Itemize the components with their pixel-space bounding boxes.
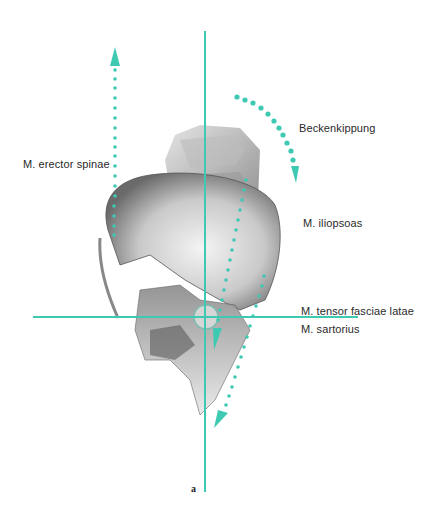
overlay-lines — [0, 0, 427, 524]
label-beckenkippung: Beckenkippung — [299, 122, 376, 134]
figure-letter: a — [191, 483, 196, 494]
label-erector-spinae: M. erector spinae — [23, 158, 110, 170]
erector-spinae-arrow-icon — [110, 47, 120, 237]
label-sartorius: M. sartorius — [301, 323, 360, 335]
label-tensor-fasciae-latae: M. tensor fasciae latae — [301, 305, 414, 317]
figure-stage: M. erector spinae Beckenkippung M. iliop… — [0, 0, 427, 524]
label-iliopsoas: M. iliopsoas — [303, 217, 362, 229]
iliopsoas-arrow-icon — [213, 178, 248, 350]
tensor-sartorius-arrow-icon — [214, 274, 266, 428]
beckenkippung-arrow-icon — [234, 94, 299, 183]
